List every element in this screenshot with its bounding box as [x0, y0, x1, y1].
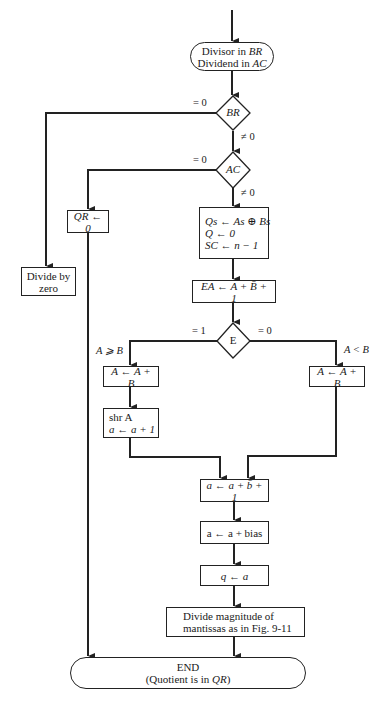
- br-yes-label: = 0: [193, 97, 207, 108]
- left-add-box: A ← A + B: [103, 366, 159, 387]
- e-left-label: = 1: [192, 325, 206, 336]
- add-bias-box: a ← a + bias: [200, 521, 269, 544]
- e-right-label: = 0: [258, 325, 272, 336]
- shift-right-box: shr A a ← a + 1: [103, 408, 159, 438]
- ac-no-label: ≠ 0: [241, 187, 255, 198]
- init-box: Qs ← As ⊕ Bs Q ← 0 SC ← n − 1: [199, 207, 269, 259]
- divide-by-zero-box: Divide by zero: [21, 267, 76, 296]
- br-no-label: ≠ 0: [241, 131, 255, 142]
- e-right-condition: A < B: [344, 344, 369, 355]
- right-add-box: A ← A + B: [309, 366, 365, 387]
- q-assign-box: q ← a: [200, 565, 269, 586]
- e-left-condition: A ⩾ B: [96, 344, 123, 356]
- divide-magnitude-box: Divide magnitude of mantissas as in Fig.…: [166, 607, 305, 637]
- qr-zero-box: QR ← 0: [67, 210, 109, 233]
- decision-ac-label: AC: [216, 163, 250, 175]
- start-line-1: Divisor in BR: [202, 45, 263, 57]
- decision-e-label: E: [216, 334, 250, 346]
- start-line-2: Dividend in AC: [197, 57, 266, 69]
- end-terminal: END (Quotient is in QR): [70, 657, 306, 689]
- exponent-subtract-box: a ← a + b̄ + 1: [200, 479, 269, 502]
- decision-br-label: BR: [216, 106, 250, 118]
- ac-yes-label: = 0: [193, 154, 207, 165]
- start-terminal: Divisor in BR Dividend in AC: [190, 42, 274, 71]
- ea-subtract-box: EA ← A + B̄ + 1: [192, 280, 276, 303]
